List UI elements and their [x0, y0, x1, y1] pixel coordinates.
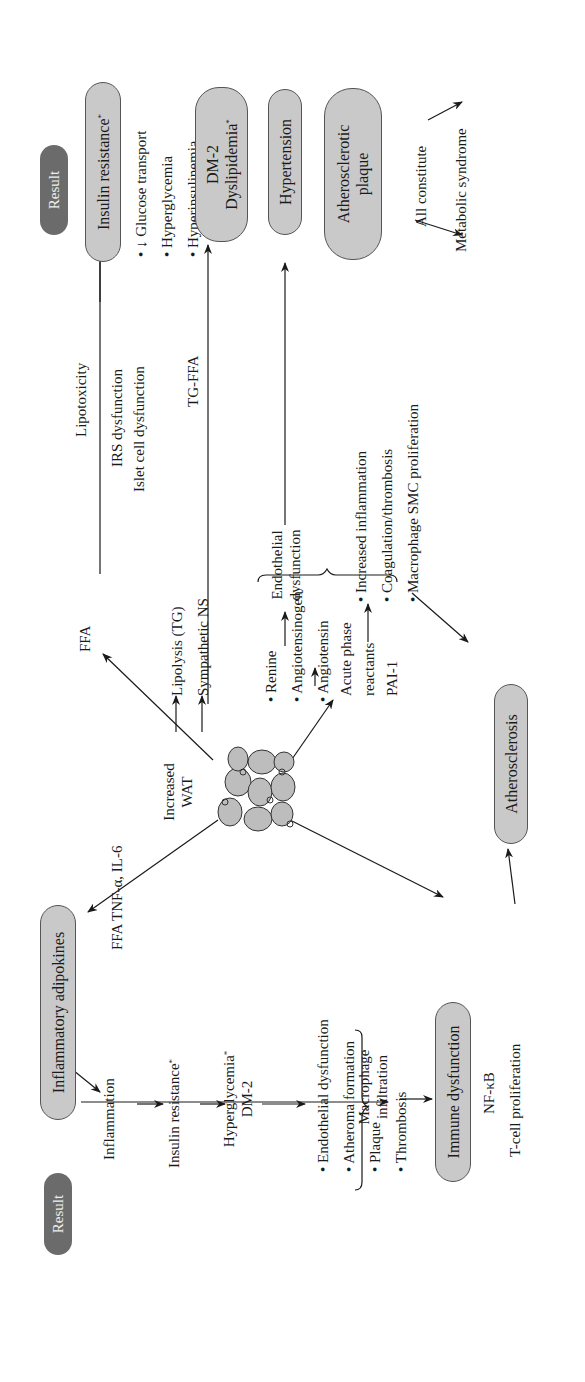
- atherosclerosis-pill: Atherosclerosis: [494, 684, 528, 844]
- lipotoxicity-label: Lipotoxicity: [72, 363, 90, 437]
- diagram-stage: Result Result Inflammatory adipokines FF…: [0, 0, 585, 1382]
- increased-wat-label: Increased WAT: [160, 752, 196, 832]
- dm2-dyslipidemia-pill: DM-2 Dyslipidemia*: [195, 87, 248, 242]
- insulin-resistance-result-pill: Insulin resistance*: [85, 82, 121, 262]
- tcell-proliferation-label: T-cell proliferation: [506, 1044, 524, 1157]
- sympathetic-label: Sympathetic NS: [194, 598, 212, 696]
- metabolic-syndrome-label: Metabolic syndrome: [452, 128, 470, 252]
- inflammatory-adipokines-pill: Inflammatory adipokines: [40, 905, 76, 1120]
- acute-phase-label: Acute phase reactants PAI-1: [335, 622, 404, 696]
- adipocyte-cluster-icon: [218, 747, 295, 831]
- macrophage-infiltration-label: Macrophage infiltration: [355, 1032, 391, 1142]
- tg-ffa-label: TG-FFA: [184, 356, 202, 407]
- lipolysis-label: Lipolysis (TG): [168, 606, 186, 696]
- result-badge-right: Result: [40, 145, 68, 235]
- adipokines-edge-label: FFA TNF-α, IL-6: [108, 846, 126, 950]
- ffa-label: FFA: [76, 626, 94, 652]
- result-badge-left: Result: [44, 1173, 72, 1255]
- endothelial-dysfunction-label: Endothelial dysfunction: [268, 520, 304, 610]
- islet-cell-label: Islet cell dysfunction: [130, 366, 148, 492]
- irs-dysfunction-label: IRS dysfunction: [108, 369, 126, 467]
- hypertension-pill: Hypertension: [268, 89, 302, 235]
- inflammation-label: Inflammation: [100, 1078, 118, 1160]
- all-constitute-label: All constitute: [412, 146, 430, 227]
- immune-dysfunction-pill: Immune dysfunction: [435, 1002, 471, 1182]
- atherosclerotic-plaque-pill: Atherosclerotic plaque: [324, 88, 382, 260]
- nfkb-label: NF-κB: [480, 1072, 498, 1114]
- hyperglycemia-label: Hyperglycemia* DM-2: [220, 1044, 256, 1154]
- insulin-resistance-label: Insulin resistance*: [165, 1059, 183, 1168]
- inflammation-items-list: • Increased inflammation • Coagulation/t…: [348, 404, 426, 602]
